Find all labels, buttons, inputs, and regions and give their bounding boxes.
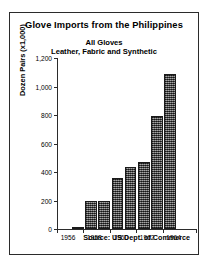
y-tick-label: 800 — [41, 112, 52, 119]
chart-title: Glove Imports from the Philippines — [10, 20, 198, 30]
y-tick-label: 200 — [41, 197, 52, 204]
chart-figure: Glove Imports from the Philippines All G… — [9, 12, 199, 255]
x-tick-mark — [57, 229, 58, 233]
plot-area: 02004006008001,0001,200 1956195819601962… — [57, 58, 190, 230]
y-tick-label: 0 — [48, 226, 52, 233]
bar — [151, 116, 163, 229]
source-note: Source: US Dept. of Commerce — [83, 233, 190, 242]
y-tick-label: 1,200 — [35, 55, 52, 62]
bar — [138, 162, 150, 229]
bar — [164, 74, 176, 229]
y-tick-label: 1,000 — [35, 83, 52, 90]
bar — [125, 167, 137, 229]
x-tick-label: 1956 — [61, 234, 76, 241]
bar — [98, 201, 110, 229]
y-tick-label: 400 — [41, 169, 52, 176]
x-tick-mark-end — [196, 229, 197, 233]
bar — [112, 178, 124, 229]
bar-series — [58, 58, 190, 229]
y-axis-title: Dozen Pairs (x1,000) — [18, 24, 27, 96]
y-tick-label: 600 — [41, 140, 52, 147]
bar — [85, 201, 97, 229]
chart-subtitle-line1: All Gloves — [10, 38, 198, 47]
